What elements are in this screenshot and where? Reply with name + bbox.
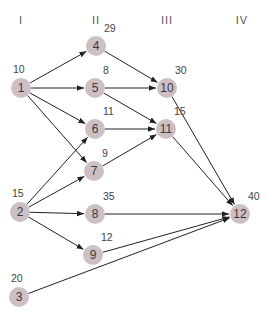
node-weight-8: 35: [103, 190, 115, 202]
column-label-III: III: [161, 14, 173, 26]
node-weight-1: 10: [13, 63, 25, 75]
edge-3-12: [28, 218, 229, 294]
node-7: 7: [84, 161, 104, 181]
node-1: 1: [11, 78, 31, 98]
node-8: 8: [85, 204, 105, 224]
node-weight-9: 12: [101, 231, 113, 243]
node-3: 3: [9, 287, 29, 307]
node-2: 2: [10, 202, 30, 222]
edge-1-4: [30, 51, 87, 83]
edge-9-12: [103, 217, 230, 252]
node-10: 10: [157, 78, 177, 98]
node-weight-4: 29: [104, 22, 116, 34]
node-11: 11: [156, 119, 176, 139]
edge-11-12: [173, 137, 233, 206]
column-label-II: II: [92, 14, 100, 26]
node-weight-2: 15: [12, 187, 24, 199]
edge-2-6: [27, 137, 88, 204]
edge-1-6: [30, 93, 86, 124]
edge-2-8: [30, 212, 84, 213]
node-weight-11: 15: [174, 105, 186, 117]
node-weight-12: 40: [248, 190, 260, 202]
edge-7-11: [103, 135, 157, 166]
edge-layer: [0, 0, 272, 322]
edge-4-10: [105, 51, 158, 82]
node-weight-3: 20: [11, 272, 23, 284]
edge-2-9: [29, 217, 84, 249]
node-6: 6: [85, 119, 105, 139]
node-4: 4: [86, 36, 106, 56]
node-weight-7: 9: [102, 147, 108, 159]
edge-1-7: [28, 96, 87, 163]
column-label-I: I: [19, 14, 23, 26]
node-9: 9: [83, 245, 103, 265]
node-weight-6: 11: [103, 105, 114, 117]
node-weight-5: 8: [103, 64, 109, 76]
column-label-IV: IV: [236, 14, 248, 26]
node-5: 5: [85, 78, 105, 98]
node-weight-10: 30: [175, 64, 187, 76]
node-12: 12: [230, 204, 250, 224]
edge-2-7: [29, 176, 85, 207]
